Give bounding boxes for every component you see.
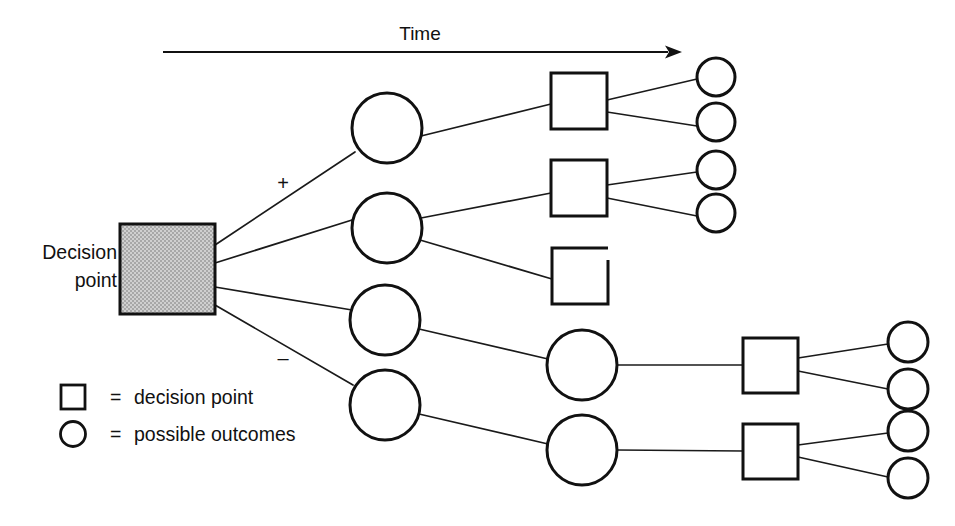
branch-sign-plus: + (277, 172, 289, 194)
outcome-circle-l4-o8 (888, 458, 928, 498)
edge-s4-to-o6 (798, 371, 888, 389)
circle-symbol (61, 422, 86, 447)
edge-s2-to-o4 (607, 198, 697, 216)
square-symbol (61, 385, 85, 409)
edge-s1-to-o1 (607, 79, 697, 100)
outcome-circle-l4-o5 (888, 322, 928, 362)
nodes-layer (350, 58, 928, 498)
decision-square-l2-s1 (551, 73, 607, 129)
edge-b2-to-s5 (617, 450, 743, 451)
decision-tree-figure: Time Decision point +– =decision point=p… (0, 0, 955, 526)
edge-c1-to-s1 (421, 104, 551, 136)
decision-square-l3-s4 (743, 338, 798, 393)
edge-root-to-c1 (215, 152, 355, 245)
root-decision-box (120, 224, 215, 314)
outcome-circle-l1-c1 (352, 93, 422, 163)
outcome-circle-l4-o6 (888, 369, 928, 409)
decision-square-l2-s2 (551, 160, 607, 216)
decision-square-l3-s5 (743, 424, 798, 479)
outcome-circle-l1-c4 (350, 370, 420, 440)
legend-equals-0: = (110, 386, 121, 408)
outcome-circle-l3-o4 (697, 194, 735, 232)
time-axis: Time (163, 23, 682, 59)
outcome-circle-l3-o2 (697, 103, 735, 141)
legend-equals-1: = (110, 423, 121, 445)
legend-label-1: possible outcomes (134, 423, 296, 445)
edge-c4-to-b2 (419, 414, 548, 444)
branch-sign-minus: – (277, 347, 289, 369)
edge-c3-to-b1 (419, 329, 548, 359)
edge-s4-to-o5 (798, 344, 888, 358)
legend-item-0: =decision point (61, 385, 254, 409)
edge-root-to-c4 (215, 305, 353, 385)
outcome-circle-l1-c3 (350, 285, 420, 355)
time-axis-label: Time (399, 23, 441, 44)
edge-s5-to-o8 (798, 457, 888, 477)
edge-root-to-c2 (215, 220, 352, 263)
edge-c2-to-s2 (421, 193, 551, 218)
legend: =decision point=possible outcomes (61, 385, 296, 447)
edge-s5-to-o7 (798, 433, 888, 445)
decision-square-l2-s3 (552, 248, 608, 304)
legend-label-0: decision point (134, 386, 254, 408)
outcome-circle-l4-o7 (888, 411, 928, 451)
decision-tree-canvas: Time Decision point +– =decision point=p… (0, 0, 955, 526)
outcome-circle-l3-o3 (697, 151, 735, 189)
edge-root-to-c3 (215, 287, 352, 310)
root-decision-point: Decision point (42, 224, 215, 314)
outcome-circle-l2-b2 (547, 415, 617, 485)
outcome-circle-l2-b1 (547, 330, 617, 400)
edge-s2-to-o3 (607, 172, 697, 185)
outcome-circle-l3-o1 (697, 58, 735, 96)
legend-item-1: =possible outcomes (61, 422, 296, 447)
outcome-circle-l1-c2 (352, 193, 422, 263)
edge-s1-to-o2 (607, 112, 697, 126)
root-label-line1: Decision (42, 241, 117, 263)
root-label-line2: point (75, 269, 118, 291)
edge-c2-to-s3 (420, 240, 552, 279)
